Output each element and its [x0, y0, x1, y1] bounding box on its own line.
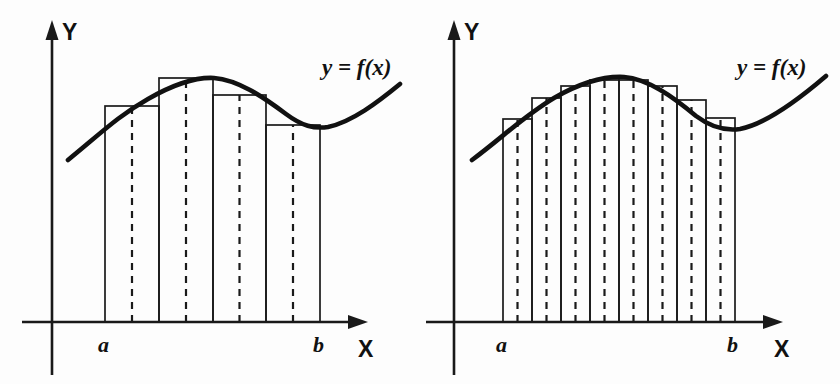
right-panel: Y X a b y = f(x)	[420, 0, 840, 384]
x-axis-label: X	[358, 336, 374, 362]
x-axis-arrowhead	[763, 315, 783, 329]
tick-label-b: b	[313, 332, 324, 357]
tick-label-a: a	[496, 332, 507, 357]
tick-label-a: a	[98, 332, 109, 357]
rectangle-2	[532, 98, 561, 322]
rectangle-3	[213, 95, 266, 322]
function-label: y = f(x)	[734, 55, 806, 80]
right-diagram: Y X a b y = f(x)	[420, 0, 840, 384]
x-axis-label: X	[774, 336, 790, 362]
y-axis-arrowhead	[448, 20, 461, 40]
function-label: y = f(x)	[319, 55, 391, 80]
figure-canvas: Y X a b y = f(x)	[0, 0, 840, 384]
left-panel: Y X a b y = f(x)	[0, 0, 420, 384]
y-axis-label: Y	[62, 19, 77, 45]
y-axis-label: Y	[464, 19, 479, 45]
x-axis-arrowhead	[348, 315, 368, 329]
left-diagram: Y X a b y = f(x)	[0, 0, 420, 384]
tick-label-b: b	[727, 332, 738, 357]
y-axis-arrowhead	[46, 20, 59, 40]
